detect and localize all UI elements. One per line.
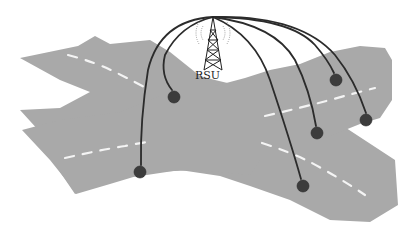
vehicle-node <box>330 74 342 86</box>
vehicle-node <box>311 127 323 139</box>
rsu-label: RSU <box>195 69 220 82</box>
radio-tower-icon <box>196 17 230 70</box>
rsu-vehicle-network-diagram: RSU <box>0 0 410 236</box>
vehicle-node <box>168 91 180 103</box>
vehicle-node <box>134 166 146 178</box>
vehicle-node <box>360 114 372 126</box>
vehicle-node <box>297 180 309 192</box>
